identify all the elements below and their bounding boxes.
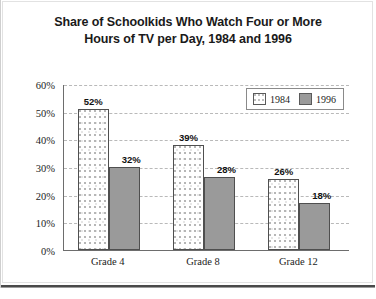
bar-1996-grade-4: 32% [109,167,140,250]
y-axis-tick-labels: 0%10%20%30%40%50%60% [0,85,63,251]
y-axis-tick-50: 50% [7,107,55,118]
bar-value-label: 39% [179,132,198,143]
bottom-rule-shadow [1,287,375,288]
chart-legend: 1984 1996 [246,88,344,110]
x-axis-tick-grade-4: Grade 4 [91,256,125,267]
bar-value-label: 32% [122,154,141,165]
bar-1984-grade-8: 39% [173,145,204,250]
legend-label-1996: 1996 [316,94,336,105]
chart-title-line-2: Hours of TV per Day, 1984 and 1996 [0,31,376,48]
bar-1984-grade-4: 52% [78,109,109,250]
bar-value-label: 18% [312,190,331,201]
y-axis-tick-10: 10% [7,218,55,229]
bar-1996-grade-12: 18% [299,203,330,250]
legend-item-1996: 1996 [299,93,336,105]
legend-swatch-1984 [253,93,266,105]
chart-figure: Share of Schoolkids Who Watch Four or Mo… [0,0,376,299]
chart-title-line-1: Share of Schoolkids Who Watch Four or Mo… [54,15,322,29]
chart-title: Share of Schoolkids Who Watch Four or Mo… [0,14,376,48]
legend-swatch-1996 [299,93,312,105]
x-axis-tick-grade-12: Grade 12 [279,256,318,267]
y-axis-tick-20: 20% [7,190,55,201]
bar-value-label: 26% [274,166,293,177]
bar-value-label: 28% [217,164,236,175]
x-axis-tick-grade-8: Grade 8 [186,256,220,267]
y-axis-tick-30: 30% [7,163,55,174]
bar-group: 39%28% [159,85,254,250]
x-axis-tick-labels: Grade 4Grade 8Grade 12 [63,256,349,276]
y-axis-tick-0: 0% [7,246,55,257]
bar-group: 52%32% [64,85,159,250]
legend-label-1984: 1984 [270,94,290,105]
legend-item-1984: 1984 [253,93,290,105]
y-axis-tick-60: 60% [7,80,55,91]
bar-value-label: 52% [84,96,103,107]
y-axis-tick-40: 40% [7,135,55,146]
bar-1984-grade-12: 26% [268,179,299,250]
bar-1996-grade-8: 28% [204,177,235,250]
